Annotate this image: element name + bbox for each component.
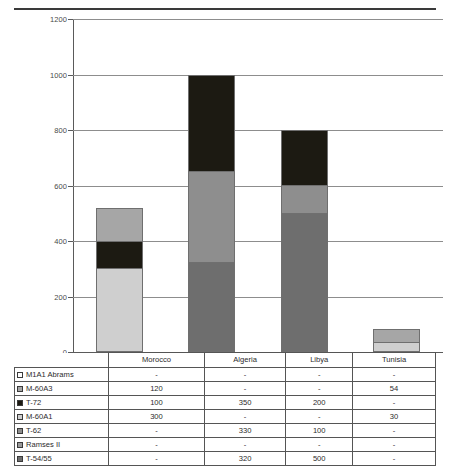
legend-row-label: T-54/55 <box>15 452 109 466</box>
table-head: MoroccoAlgeriaLibyaTunisia <box>15 353 436 368</box>
cell-algeria: 320 <box>204 452 285 466</box>
cell-morocco: - <box>109 452 205 466</box>
y-tick-label-1200: 1200 <box>27 15 67 24</box>
cell-morocco: 300 <box>109 410 205 424</box>
legend-swatch-icon <box>17 414 23 420</box>
bar-segment-morocco-t72[interactable] <box>97 242 142 269</box>
legend-swatch-icon <box>17 428 23 434</box>
table-row: Ramses II---- <box>15 438 436 452</box>
bar-morocco[interactable] <box>96 208 143 352</box>
column-header-libya: Libya <box>286 353 353 368</box>
bar-segment-libya-t62[interactable] <box>282 186 327 214</box>
column-header-tunisia: Tunisia <box>353 353 436 368</box>
bar-segment-algeria-t5455[interactable] <box>189 263 234 351</box>
y-tick-label-1000: 1000 <box>27 71 67 80</box>
table-header-row: MoroccoAlgeriaLibyaTunisia <box>15 353 436 368</box>
table-row: M-60A3120--54 <box>15 382 436 396</box>
bar-libya[interactable] <box>281 130 328 352</box>
cell-algeria: - <box>204 368 285 382</box>
cell-tunisia: 54 <box>353 382 436 396</box>
cell-tunisia: - <box>353 424 436 438</box>
legend-swatch-icon <box>17 386 23 392</box>
table-corner-cell <box>15 353 109 368</box>
column-header-morocco: Morocco <box>109 353 205 368</box>
data-table: MoroccoAlgeriaLibyaTunisia M1A1 Abrams--… <box>14 352 436 466</box>
cell-libya: 500 <box>286 452 353 466</box>
bar-segment-morocco-m60a1[interactable] <box>97 269 142 351</box>
cell-tunisia: - <box>353 438 436 452</box>
bar-segment-libya-t72[interactable] <box>282 131 327 186</box>
legend-row-label: T-62 <box>15 424 109 438</box>
cell-libya: - <box>286 382 353 396</box>
gridline-1000 <box>73 75 443 76</box>
y-tick-label-400: 400 <box>27 237 67 246</box>
bar-algeria[interactable] <box>188 75 235 353</box>
stacked-bar-chart: 020040060080010001200 <box>0 14 450 354</box>
table-row: T-72100350200- <box>15 396 436 410</box>
cell-algeria: 350 <box>204 396 285 410</box>
cell-algeria: - <box>204 410 285 424</box>
legend-swatch-icon <box>17 456 23 462</box>
cell-algeria: - <box>204 382 285 396</box>
table-row: M1A1 Abrams---- <box>15 368 436 382</box>
gridline-800 <box>73 130 443 131</box>
column-header-algeria: Algeria <box>204 353 285 368</box>
bar-segment-tunisia-m60a1[interactable] <box>374 343 419 351</box>
gridline-1200 <box>73 19 443 20</box>
top-divider-rule <box>14 8 436 10</box>
cell-tunisia: - <box>353 396 436 410</box>
legend-row-label: Ramses II <box>15 438 109 452</box>
table-body: M1A1 Abrams----M-60A3120--54T-7210035020… <box>15 368 436 466</box>
y-tick-label-800: 800 <box>27 126 67 135</box>
bar-segment-morocco-m60a3[interactable] <box>97 209 142 242</box>
cell-morocco: - <box>109 368 205 382</box>
cell-tunisia: - <box>353 452 436 466</box>
cell-libya: 200 <box>286 396 353 410</box>
legend-row-label: M-60A1 <box>15 410 109 424</box>
table-row: M-60A1300--30 <box>15 410 436 424</box>
cell-morocco: 120 <box>109 382 205 396</box>
legend-swatch-icon <box>17 400 23 406</box>
cell-libya: - <box>286 410 353 424</box>
legend-row-label: T-72 <box>15 396 109 410</box>
y-tick-label-200: 200 <box>27 293 67 302</box>
cell-morocco: 100 <box>109 396 205 410</box>
cell-morocco: - <box>109 424 205 438</box>
cell-libya: - <box>286 438 353 452</box>
chart-page: 020040060080010001200 MoroccoAlgeriaLiby… <box>0 0 450 468</box>
cell-algeria: 330 <box>204 424 285 438</box>
table-row: T-54/55-320500- <box>15 452 436 466</box>
bar-segment-tunisia-m60a3[interactable] <box>374 330 419 344</box>
bar-tunisia[interactable] <box>373 329 420 352</box>
legend-row-label: M1A1 Abrams <box>15 368 109 382</box>
bar-segment-algeria-t62[interactable] <box>189 172 234 263</box>
bar-segment-libya-t5455[interactable] <box>282 214 327 352</box>
plot-area <box>73 19 443 352</box>
legend-row-label: M-60A3 <box>15 382 109 396</box>
bar-segment-algeria-t72[interactable] <box>189 76 234 172</box>
legend-swatch-icon <box>17 442 23 448</box>
cell-libya: - <box>286 368 353 382</box>
gridline-600 <box>73 186 443 187</box>
y-tick-label-600: 600 <box>27 182 67 191</box>
table-row: T-62-330100- <box>15 424 436 438</box>
cell-algeria: - <box>204 438 285 452</box>
cell-tunisia: 30 <box>353 410 436 424</box>
cell-tunisia: - <box>353 368 436 382</box>
cell-morocco: - <box>109 438 205 452</box>
legend-swatch-icon <box>17 372 23 378</box>
cell-libya: 100 <box>286 424 353 438</box>
